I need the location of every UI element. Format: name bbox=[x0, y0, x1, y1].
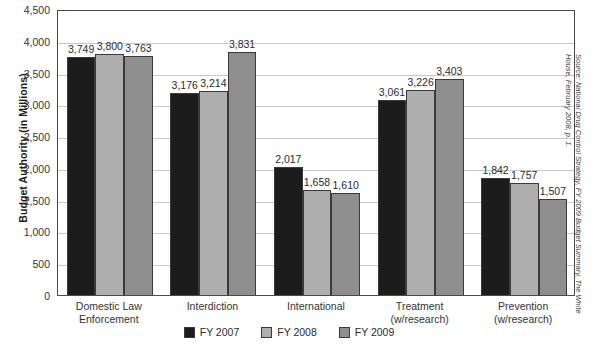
bar-item[interactable]: 3,749 bbox=[67, 11, 96, 295]
bar-item[interactable]: 3,403 bbox=[435, 11, 464, 295]
bar-item[interactable]: 1,658 bbox=[303, 11, 332, 295]
bar-group: 3,7493,8003,763 bbox=[67, 11, 153, 295]
legend-swatch-icon bbox=[261, 327, 272, 338]
bar[interactable] bbox=[228, 52, 257, 295]
bar[interactable] bbox=[124, 56, 153, 295]
bar-group: 2,0171,6581,610 bbox=[274, 11, 360, 295]
bar-group: 1,8421,7571,507 bbox=[481, 11, 567, 295]
chart-legend: FY 2007FY 2008FY 2009 bbox=[0, 326, 578, 338]
bar[interactable] bbox=[510, 183, 539, 295]
legend-item[interactable]: FY 2007 bbox=[184, 326, 240, 338]
x-axis-category-label-line: International bbox=[264, 300, 368, 313]
bar-item[interactable]: 3,763 bbox=[124, 11, 153, 295]
bar-value-label: 2,017 bbox=[275, 153, 301, 165]
bars-layer: 3,7493,8003,7633,1763,2143,8312,0171,658… bbox=[58, 11, 574, 295]
bar-value-label: 3,800 bbox=[97, 40, 123, 52]
x-axis-category-label: Prevention(w/research) bbox=[471, 300, 575, 326]
source-note: Source: National Drug Control Strategy, … bbox=[564, 54, 583, 304]
bar[interactable] bbox=[435, 79, 464, 295]
bar-value-label: 1,610 bbox=[333, 179, 359, 191]
bar-item[interactable]: 3,214 bbox=[199, 11, 228, 295]
y-axis-tick-label: 3,000 bbox=[24, 99, 50, 111]
y-axis-tick-label: 2,000 bbox=[24, 163, 50, 175]
bar[interactable] bbox=[481, 178, 510, 295]
bar[interactable] bbox=[303, 190, 332, 295]
x-axis-category-label-line: (w/research) bbox=[471, 313, 575, 326]
legend-item[interactable]: FY 2009 bbox=[339, 326, 395, 338]
bar[interactable] bbox=[199, 91, 228, 295]
bar-item[interactable]: 3,061 bbox=[378, 11, 407, 295]
bar[interactable] bbox=[406, 90, 435, 295]
y-axis-tick-label: 3,500 bbox=[24, 68, 50, 80]
source-note-line-2: House, February 2008, p. 1. bbox=[564, 54, 574, 304]
y-axis-tick-labels: 4,5004,0003,5003,0002,5002,0001,5001,000… bbox=[6, 10, 50, 296]
y-axis-tick-label: 4,000 bbox=[24, 36, 50, 48]
bar-value-label: 3,226 bbox=[407, 76, 433, 88]
legend-item[interactable]: FY 2008 bbox=[261, 326, 317, 338]
bar-value-label: 3,214 bbox=[200, 77, 226, 89]
x-axis-category-label-line: (w/research) bbox=[368, 313, 472, 326]
bar-item[interactable]: 3,831 bbox=[228, 11, 257, 295]
bar-value-label: 3,831 bbox=[229, 38, 255, 50]
bar[interactable] bbox=[331, 193, 360, 295]
bar-item[interactable]: 1,507 bbox=[539, 11, 568, 295]
bar[interactable] bbox=[95, 54, 124, 296]
bar-group: 3,1763,2143,831 bbox=[170, 11, 256, 295]
x-axis-category-label: Interdiction bbox=[161, 300, 265, 313]
legend-label: FY 2007 bbox=[200, 326, 240, 338]
bar[interactable] bbox=[67, 57, 96, 295]
bar-value-label: 1,658 bbox=[304, 176, 330, 188]
bar-item[interactable]: 3,226 bbox=[406, 11, 435, 295]
bar[interactable] bbox=[539, 199, 568, 295]
x-axis-category-label-line: Enforcement bbox=[57, 313, 161, 326]
bar-value-label: 3,403 bbox=[436, 65, 462, 77]
y-axis-tick-label: 2,500 bbox=[24, 131, 50, 143]
x-axis-category-label-line: Interdiction bbox=[161, 300, 265, 313]
bar-value-label: 3,749 bbox=[68, 43, 94, 55]
bar-value-label: 1,757 bbox=[511, 169, 537, 181]
x-axis-category-label: Treatment(w/research) bbox=[368, 300, 472, 326]
x-axis-category-label-line: Domestic Law bbox=[57, 300, 161, 313]
legend-swatch-icon bbox=[339, 327, 350, 338]
y-axis-tick-label: 4,500 bbox=[24, 4, 50, 16]
bar-value-label: 1,842 bbox=[482, 164, 508, 176]
bar-item[interactable]: 3,176 bbox=[170, 11, 199, 295]
y-axis-tick-label: 1,500 bbox=[24, 195, 50, 207]
bar-value-label: 3,061 bbox=[379, 86, 405, 98]
bar-group: 3,0613,2263,403 bbox=[378, 11, 464, 295]
bar[interactable] bbox=[274, 167, 303, 295]
y-axis-tick-label: 1,000 bbox=[24, 226, 50, 238]
bar-value-label: 3,176 bbox=[172, 79, 198, 91]
bar-item[interactable]: 1,757 bbox=[510, 11, 539, 295]
legend-label: FY 2009 bbox=[355, 326, 395, 338]
legend-label: FY 2008 bbox=[277, 326, 317, 338]
bar[interactable] bbox=[378, 100, 407, 295]
bar-item[interactable]: 1,610 bbox=[331, 11, 360, 295]
plot-area: 3,7493,8003,7633,1763,2143,8312,0171,658… bbox=[57, 10, 575, 296]
y-axis-tick-label: 500 bbox=[32, 258, 50, 270]
y-axis-tick-label: 0 bbox=[44, 290, 50, 302]
bar-item[interactable]: 3,800 bbox=[95, 11, 124, 295]
bar-item[interactable]: 2,017 bbox=[274, 11, 303, 295]
source-note-line-1: Source: National Drug Control Strategy, … bbox=[574, 54, 584, 304]
bar[interactable] bbox=[170, 93, 199, 295]
x-axis-category-label: Domestic LawEnforcement bbox=[57, 300, 161, 326]
x-axis-category-label: International bbox=[264, 300, 368, 313]
x-axis-category-label-line: Prevention bbox=[471, 300, 575, 313]
x-axis-category-label-line: Treatment bbox=[368, 300, 472, 313]
legend-swatch-icon bbox=[184, 327, 195, 338]
bar-item[interactable]: 1,842 bbox=[481, 11, 510, 295]
bar-value-label: 3,763 bbox=[125, 42, 151, 54]
bar-value-label: 1,507 bbox=[540, 185, 566, 197]
bar-chart-figure: Budget Authority (in Millions) 4,5004,00… bbox=[0, 0, 608, 346]
